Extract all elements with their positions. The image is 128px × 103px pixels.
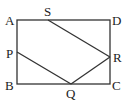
label-a: A [5, 13, 15, 28]
label-d: D [112, 13, 121, 28]
segment-pq [17, 52, 71, 84]
label-p: P [6, 46, 13, 61]
geometry-diagram: A S D P R B Q C [0, 0, 128, 103]
label-s: S [44, 4, 51, 19]
label-c: C [112, 78, 121, 93]
label-q: Q [66, 86, 76, 101]
segment-qr [71, 57, 110, 84]
label-r: R [113, 50, 122, 65]
label-b: B [5, 78, 14, 93]
segment-sr [48, 20, 110, 57]
